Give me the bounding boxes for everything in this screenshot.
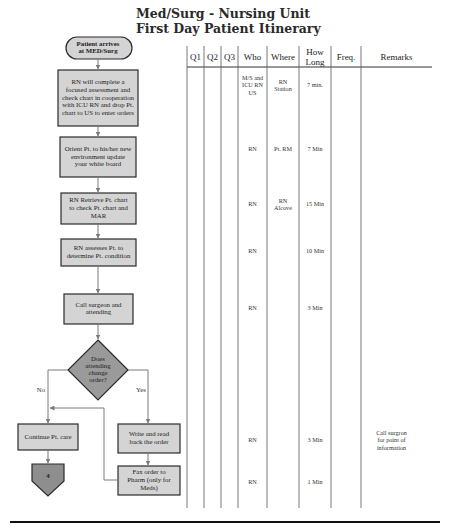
column-header: Long: [306, 57, 325, 67]
process-label: to check Pt. chart and: [69, 204, 128, 211]
table-row: RN3 MinCall surgronfor point ofinformati…: [248, 429, 407, 451]
cell-who: RN: [248, 247, 257, 254]
cell-how-long: 3 Min: [308, 304, 323, 311]
process-step-5: Call surgeon andattending: [64, 294, 133, 324]
table-row: RN10 Min: [248, 247, 324, 254]
cell-remarks: Call surgron: [376, 429, 407, 436]
cell-who: US: [249, 89, 257, 96]
process-step-2: Orient Pt. to his/her newenvironment upd…: [60, 137, 136, 177]
itinerary-diagram: Patient arrivesat MED/SurgRN will comple…: [0, 0, 449, 531]
column-header: Q1: [190, 52, 201, 62]
cell-where: Pt. RM: [274, 145, 292, 152]
process-label: MAR: [91, 212, 107, 219]
cell-where: RN: [279, 197, 288, 204]
cell-how-long: 3 Min: [308, 436, 323, 443]
column-header: Freq.: [337, 52, 356, 62]
cell-how-long: 1 Min: [308, 478, 323, 485]
start-label: Patient arrives: [77, 40, 120, 47]
column-header: Who: [244, 52, 262, 62]
no-branch-connector: [48, 370, 68, 423]
table-row: M/S andICU RNUSRNStation7 min.: [242, 74, 323, 96]
connector-shape: [32, 464, 64, 496]
table-row: RN3 Min: [248, 304, 322, 311]
process-label: RN assesses Pt. to: [74, 244, 124, 251]
column-header: Remarks: [381, 52, 413, 62]
yes-branch-connector: [128, 370, 148, 423]
itinerary-table: Q1Q2Q3WhoWhereHowLongFreq.RemarksM/S and…: [187, 46, 432, 508]
cell-who: RN: [248, 478, 257, 485]
decision-label: Does: [91, 355, 105, 362]
process-label: check chart in cooperation: [62, 94, 134, 101]
decision-node: Doesattendingchangeorder?: [68, 340, 128, 400]
process-label: focused assessment and: [66, 86, 131, 93]
column-header: Q3: [224, 52, 235, 62]
process-label: RN Retrieve Pt. chart: [69, 196, 128, 203]
connector-label: 4: [46, 472, 50, 479]
cell-where: Alcove: [274, 204, 292, 211]
table-row: RNPt. RM7 Min: [248, 145, 322, 152]
decision-label: order?: [89, 376, 106, 383]
process-label: chart to US to enter orders: [62, 109, 134, 116]
process-label: determine Pt. condition: [67, 252, 131, 259]
cell-remarks: information: [377, 444, 406, 451]
decision-label: attending: [85, 362, 111, 369]
yes-step-2: Fax order toPharm (only forMeds): [118, 466, 180, 495]
cell-who: RN: [248, 200, 257, 207]
process-step-4: RN assesses Pt. todetermine Pt. conditio…: [61, 239, 136, 266]
process-label: attending: [86, 308, 112, 315]
process-label: RN will complete a: [71, 78, 124, 85]
cell-who: RN: [248, 145, 257, 152]
continue-care-step: Continue Pt. care: [18, 424, 78, 450]
no-label: No: [37, 386, 46, 393]
process-label: your white board: [75, 160, 122, 167]
cell-who: M/S and: [242, 74, 264, 81]
table-row: RN1 Min: [248, 478, 322, 485]
column-header: Where: [271, 52, 295, 62]
process-label: Orient Pt. to his/her new: [65, 145, 132, 152]
table-row: RNRNAlcove15 Min: [248, 197, 324, 212]
process-label: Write and read: [129, 430, 170, 437]
process-label: Fax order to: [132, 468, 166, 475]
start-node: Patient arrivesat MED/Surg: [66, 37, 132, 59]
cell-who: ICU RN: [242, 81, 263, 88]
off-page-connector: 4: [32, 464, 64, 496]
column-header: Q2: [207, 52, 218, 62]
column-header: How: [306, 47, 324, 57]
cell-where: RN: [279, 78, 288, 85]
process-step-1: RN will complete afocused assessment and…: [58, 70, 138, 126]
yes-step-1: Write and readback the order: [118, 424, 180, 453]
process-step-3: RN Retrieve Pt. chartto check Pt. chart …: [61, 193, 136, 224]
process-label: with ICU RN and drop Pt.: [62, 101, 134, 108]
process-label: Call surgeon and: [76, 301, 123, 308]
cell-how-long: 7 Min: [308, 145, 323, 152]
cell-how-long: 15 Min: [306, 200, 324, 207]
cell-where: Station: [274, 85, 292, 92]
cell-who: RN: [248, 436, 257, 443]
cell-how-long: 10 Min: [306, 247, 324, 254]
cell-remarks: for point of: [377, 436, 406, 443]
yes-label: Yes: [136, 386, 146, 393]
process-label: back the order: [130, 438, 170, 445]
process-label: environment update: [71, 153, 125, 160]
process-label: Continue Pt. care: [24, 433, 71, 440]
flowchart: Patient arrivesat MED/SurgRN will comple…: [18, 37, 180, 496]
cell-who: RN: [248, 304, 257, 311]
cell-how-long: 7 min.: [307, 81, 323, 88]
process-label: Meds): [140, 484, 157, 492]
start-label: at MED/Surg: [78, 47, 118, 54]
decision-label: change: [88, 369, 107, 376]
